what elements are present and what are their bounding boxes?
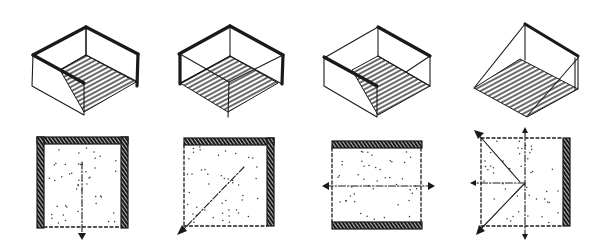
stipple-dot [493,172,495,174]
stipple-dot [385,177,387,179]
movement-arrow-up-left [477,133,520,182]
figure-3-axonometric [324,27,430,117]
stipple-dot [517,195,519,197]
stipple-dot [512,216,514,218]
stipple-dot [54,164,56,166]
stipple-dot [221,175,223,177]
stipple-dot [339,175,341,177]
wall-top [184,138,274,145]
stipple-dot [187,204,189,206]
stipple-dot [66,206,68,208]
stipple-dot [80,164,82,166]
figure-2-plan [177,138,274,235]
stipple-dot [94,158,96,160]
stipple-dot [404,162,406,164]
stipple-dot [225,200,227,202]
stipple-dot [115,160,117,162]
stipple-dot [337,176,339,178]
stipple-dot [89,177,91,179]
stipple-dot [85,171,87,173]
stipple-dot [379,169,381,171]
stipple-dot [238,212,240,214]
stipple-dot [228,209,230,211]
arrowhead-down-icon [78,233,86,240]
stipple-dot [229,221,231,223]
stipple-dot [549,202,551,204]
stipple-dot [496,140,498,142]
stipple-dot [546,191,548,193]
stipple-dot [69,173,71,175]
stipple-dot [196,207,198,209]
stipple-dot [361,151,363,153]
wall-left [37,137,44,228]
stipple-dot [86,183,88,185]
stipple-dot [51,217,53,219]
stipple-dot [357,174,359,176]
stipple-dot [248,157,250,159]
stipple-dot [71,173,73,175]
stipple-dot [222,213,224,215]
stipple-dot [493,167,495,169]
movement-arrow-down-left [183,167,244,230]
stipple-dot [100,195,102,197]
stipple-dot [532,171,534,173]
stipple-dot [58,222,60,224]
stipple-dot [362,151,364,153]
stipple-dot [94,167,96,169]
stipple-dot [192,213,194,215]
stipple-dot [238,184,240,186]
stipple-dots [187,146,259,223]
stipple-dot [484,160,486,162]
stipple-dot [257,198,259,200]
stipple-dot [241,199,243,201]
stipple-dot [416,188,418,190]
stipple-dot [256,166,258,168]
stipple-dot [557,212,559,214]
arrowhead-left-icon [322,182,329,190]
stipple-dot [51,214,53,216]
stipple-dot [397,204,399,206]
figure-1-plan [37,137,128,240]
arrowhead-right-icon [428,182,435,190]
stipple-dot [354,201,356,203]
back-left-wall-top-edge [33,27,86,55]
figure-1-axonometric [32,27,138,115]
stipple-dot [360,213,362,215]
back-left-wall-top-edge [179,26,230,54]
stipple-dots [49,147,117,224]
wall-bottom [332,222,422,229]
stipple-dot [536,198,538,200]
stipple-dot [255,178,257,180]
stipple-dot [95,196,97,198]
back-right-wall-top-edge [230,26,283,55]
stipple-dot [339,201,341,203]
stipple-dot [363,178,365,180]
stipple-dot [527,215,529,217]
stipple-dot [396,184,398,186]
stipple-dot [113,212,115,214]
back-left-open-edge [324,27,378,58]
stipple-dot [528,194,530,196]
stipple-dot [490,165,492,167]
stipple-dot [55,163,57,165]
stipple-dot [366,215,368,217]
stipple-dot [242,195,244,197]
stipple-dot [225,150,227,152]
stipple-dot [61,176,63,178]
stipple-dot [493,198,495,200]
stipple-dot [191,173,193,175]
stipple-dot [354,193,356,195]
stipple-dot [409,189,411,191]
arrowhead-down-icon [522,234,528,240]
stipple-dot [361,160,363,162]
floor-hatched [352,56,430,115]
figure-4-plan [470,127,570,240]
stipple-dot [58,149,60,151]
wall-right [267,138,274,226]
stipple-dot [371,155,373,157]
stipple-dot [248,216,250,218]
stipple-dot [204,169,206,171]
stipple-dot [221,202,223,204]
back-right-wall-end [137,54,138,86]
stipple-dot [222,220,224,222]
